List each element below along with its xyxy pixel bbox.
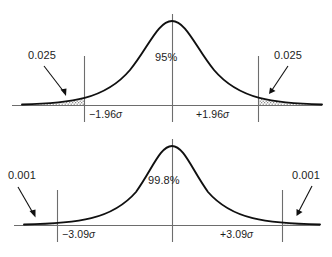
normal-distribution-figure: 0.025 95% 0.025 −1.96σ +1.96σ xyxy=(0,0,332,257)
bound-label-left: −1.96σ xyxy=(89,109,122,120)
tail-probability-right-label: 0.025 xyxy=(274,50,302,61)
arrowhead-right xyxy=(269,88,276,95)
leader-arrow-left xyxy=(18,187,33,213)
arrowhead-left xyxy=(61,89,67,97)
chart-95-svg xyxy=(0,0,332,130)
bound-right-value: +3.09 xyxy=(220,228,247,240)
bound-right-value: +1.96 xyxy=(196,108,223,120)
bound-left-value: −3.09 xyxy=(62,228,89,240)
bound-label-right: +3.09σ xyxy=(220,229,253,240)
leader-arrow-right xyxy=(299,186,312,211)
tail-probability-left-label: 0.001 xyxy=(8,170,36,181)
sigma-symbol-right: σ xyxy=(247,229,253,240)
chart-panel-95: 0.025 95% 0.025 −1.96σ +1.96σ xyxy=(0,0,332,130)
sigma-symbol-left: σ xyxy=(89,229,95,240)
arrowhead-left xyxy=(30,210,36,218)
center-confidence-label: 95% xyxy=(155,52,177,63)
bound-label-right: +1.96σ xyxy=(196,109,229,120)
sigma-symbol-left: σ xyxy=(116,109,122,120)
sigma-symbol-right: σ xyxy=(223,109,229,120)
chart-998-svg xyxy=(0,130,332,257)
center-confidence-label: 99.8% xyxy=(148,175,180,186)
bound-left-value: −1.96 xyxy=(89,108,116,120)
tail-probability-right-label: 0.001 xyxy=(292,170,320,181)
leader-arrow-right xyxy=(272,66,288,90)
bound-label-left: −3.09σ xyxy=(62,229,95,240)
leader-arrow-left xyxy=(44,66,64,92)
shaded-left-tail xyxy=(24,138,57,226)
tail-probability-left-label: 0.025 xyxy=(28,50,56,61)
chart-panel-998: 0.001 99.8% 0.001 −3.09σ +3.09σ xyxy=(0,130,332,257)
